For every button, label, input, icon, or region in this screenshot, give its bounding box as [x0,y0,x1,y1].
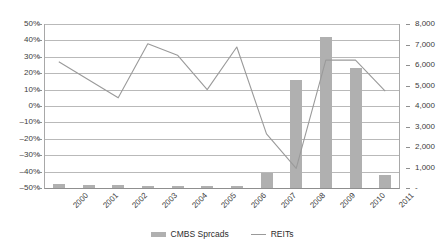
right-axis-tick-label: 4,000 [415,102,435,110]
left-axis-tick-label: 20% [4,69,40,77]
left-axis-tick-label: –20% [4,135,40,143]
right-axis-tick-label: 8,000 [415,20,435,28]
left-axis-tickmark [38,106,42,107]
x-axis-tick-label: 2008 [308,191,327,210]
x-axis-tick-label: 2010 [368,191,387,210]
left-axis-tickmark [38,40,42,41]
x-axis-tick-label: 2004 [190,191,209,210]
left-axis-tick-label: –10% [4,118,40,126]
right-axis-tickmark [406,147,410,148]
right-axis-tickmark [406,168,410,169]
x-axis-tick-label: 2011 [397,191,416,210]
x-axis: 2000200120022003200420052006200720082009… [44,189,400,223]
left-axis-tickmark [38,24,42,25]
left-axis: 50%40%30%20%10%0%–10%–20%–30%–40%–50% [0,24,40,189]
x-axis-tick-label: 2003 [160,191,179,210]
right-axis-tickmark [406,86,410,87]
legend-item-reits[interactable]: REITs [251,229,294,239]
legend-item-cmbs-spreads[interactable]: CMBS Sprcads [151,229,229,239]
dual-axis-chart: 50%40%30%20%10%0%–10%–20%–30%–40%–50% 8,… [0,0,444,249]
right-axis-tick-label: 5,000 [415,82,435,90]
right-axis-tick-label: 2,000 [415,143,435,151]
x-axis-tick-label: 2005 [219,191,238,210]
x-axis-tick-label: 2009 [338,191,357,210]
left-axis-tickmark [38,122,42,123]
right-axis-tickmark [406,45,410,46]
x-axis-tick-label: 2001 [101,191,120,210]
left-axis-tickmark [38,90,42,91]
left-axis-tick-label: 10% [4,86,40,94]
right-axis-tick-label: 3,000 [415,123,435,131]
x-axis-tick-label: 2000 [71,191,90,210]
right-axis-tickmark [406,106,410,107]
right-axis-tick-label: - [415,184,418,192]
plot-area [44,24,400,189]
right-axis-tick-label: 1,000 [415,164,435,172]
left-axis-tickmark [38,155,42,156]
left-axis-tickmark [38,73,42,74]
left-axis-tickmark [38,172,42,173]
legend-label-reits: REITs [271,229,294,239]
right-axis: 8,0007,0006,0005,0004,0003,0002,0001,000… [406,24,444,189]
right-axis-tick-label: 6,000 [415,61,435,69]
left-axis-tick-label: –50% [4,184,40,192]
line-swatch-icon [251,234,266,235]
right-axis-tick-label: 7,000 [415,41,435,49]
legend-label-cmbs-spreads: CMBS Sprcads [171,229,229,239]
right-axis-tickmark [406,65,410,66]
left-axis-tickmark [38,57,42,58]
line-series-reits [44,24,400,189]
x-axis-tick-label: 2006 [249,191,268,210]
x-axis-tick-label: 2002 [130,191,149,210]
right-axis-tickmark [406,24,410,25]
left-axis-tickmark [38,188,42,189]
left-axis-tick-label: 50% [4,20,40,28]
right-axis-tickmark [406,127,410,128]
left-axis-tick-label: 40% [4,36,40,44]
bar-swatch-icon [151,232,166,237]
left-axis-tick-label: 30% [4,53,40,61]
chart-legend: CMBS Sprcads REITs [0,226,444,242]
left-axis-tick-label: 0% [4,102,40,110]
left-axis-tickmark [38,139,42,140]
right-axis-tickmark [406,188,410,189]
left-axis-tick-label: –30% [4,151,40,159]
x-axis-tick-label: 2007 [279,191,298,210]
left-axis-tick-label: –40% [4,168,40,176]
